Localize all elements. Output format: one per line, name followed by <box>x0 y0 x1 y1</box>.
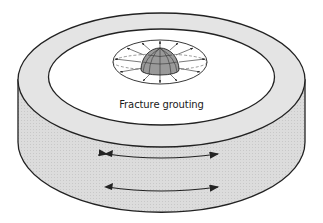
diagram-caption: Fracture grouting <box>0 99 323 110</box>
fracture-grouting-diagram <box>0 0 323 223</box>
grout-hemisphere <box>113 40 207 84</box>
